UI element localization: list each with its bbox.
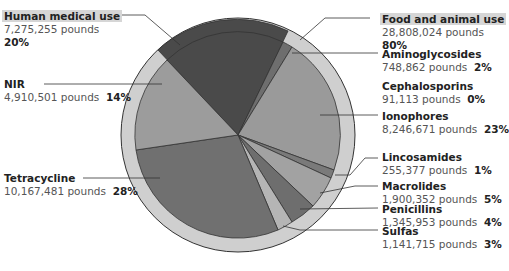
label-value: 28,808,024 pounds	[382, 26, 506, 39]
label-name: Cephalosporins	[382, 80, 485, 93]
label-name: Human medical use	[2, 10, 122, 22]
label-name: Aminoglycosides	[382, 48, 492, 61]
label-name: NIR	[4, 78, 131, 91]
label-percent: 28%	[113, 185, 138, 197]
label-value: 91,113 pounds	[382, 93, 461, 105]
label-name: Tetracycline	[4, 172, 138, 185]
label-value: 255,377 pounds	[382, 164, 467, 176]
label-value: 4,910,501 pounds	[4, 91, 99, 103]
label-name: Sulfas	[382, 225, 502, 238]
label-percent: 14%	[106, 91, 131, 103]
label-tetracycline: Tetracycline 10,167,481 pounds 28%	[4, 172, 138, 198]
label-human-medical-use: Human medical use 7,275,255 pounds 20%	[4, 10, 122, 49]
label-percent: 23%	[484, 123, 509, 135]
label-percent: 2%	[474, 61, 492, 73]
label-name: Penicillins	[382, 203, 502, 216]
label-aminoglycosides: Aminoglycosides 748,862 pounds 2%	[382, 48, 492, 74]
label-percent: 1%	[474, 164, 492, 176]
label-cephalosporins: Cephalosporins 91,113 pounds 0%	[382, 80, 485, 106]
label-value: 1,141,715 pounds	[382, 238, 477, 250]
inner-pie	[135, 32, 341, 238]
label-value: 748,862 pounds	[382, 61, 467, 73]
label-name: Food and animal use	[380, 13, 506, 25]
label-percent: 0%	[467, 93, 485, 105]
label-sulfas: Sulfas 1,141,715 pounds 3%	[382, 225, 502, 251]
label-percent: 3%	[484, 238, 502, 250]
label-percent: 20%	[4, 36, 122, 49]
label-food-animal-use: Food and animal use 28,808,024 pounds 80…	[382, 13, 506, 52]
label-ionophores: Ionophores 8,246,671 pounds 23%	[382, 110, 509, 136]
label-name: Ionophores	[382, 110, 509, 123]
label-value: 7,275,255 pounds	[4, 23, 122, 36]
label-lincosamides: Lincosamides 255,377 pounds 1%	[382, 151, 492, 177]
label-nir: NIR 4,910,501 pounds 14%	[4, 78, 131, 104]
label-value: 10,167,481 pounds	[4, 185, 106, 197]
label-name: Lincosamides	[382, 151, 492, 164]
label-name: Macrolides	[382, 180, 502, 193]
label-value: 8,246,671 pounds	[382, 123, 477, 135]
